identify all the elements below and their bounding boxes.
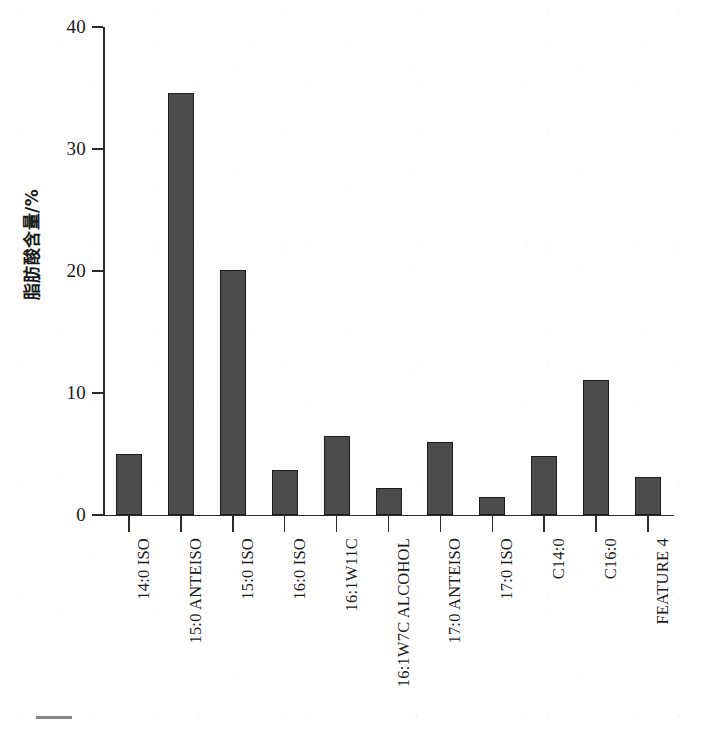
bar [635,477,661,515]
x-axis-label: 16:1W11C [344,538,361,611]
x-axis-tick [492,516,494,532]
bar [583,380,609,515]
x-axis-tick [284,516,286,532]
x-axis-label: 17:0 ISO [499,538,516,600]
bar [531,456,557,515]
x-axis-label: 15:0 ANTEISO [188,538,205,644]
bar [272,470,298,515]
x-axis-tick [128,516,130,532]
bar [220,270,246,515]
x-axis-tick [180,516,182,532]
bar [376,488,402,515]
fatty-acid-bar-chart: 脂肪酸含量/% 403020100 14:0 ISO15:0 ANTEISO15… [0,0,724,732]
x-axis-label: C16:0 [603,538,620,579]
x-axis-tick [595,516,597,532]
caption-remnant [36,716,72,719]
x-axis-tick [388,516,390,532]
x-axis-label: C14:0 [551,538,568,579]
bar [324,436,350,515]
bar [116,454,142,515]
x-axis-label: 16:0 ISO [292,538,309,600]
x-axis-tick [543,516,545,532]
x-axis-tick [440,516,442,532]
bar [427,442,453,515]
x-axis-label: FEATURE 4 [655,538,672,625]
x-axis-label: 14:0 ISO [136,538,153,600]
bar [168,93,194,515]
x-axis-label: 16:1W7C ALCOHOL [396,538,413,687]
x-axis-tick [647,516,649,532]
x-axis-tick [336,516,338,532]
bar [479,497,505,515]
bars-layer [0,0,724,732]
x-axis-label: 17:0 ANTEISO [447,538,464,644]
x-axis-tick [232,516,234,532]
x-axis-label: 15:0 ISO [240,538,257,600]
